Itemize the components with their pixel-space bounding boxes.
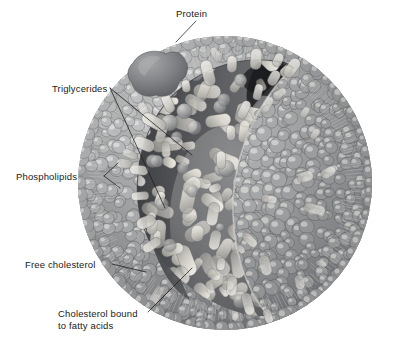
- triglyceride-glycerol-knob: [177, 163, 189, 175]
- label-cholesterol-bound-line1: Cholesterol bound: [58, 308, 138, 319]
- triglyceride-glycerol-knob: [156, 198, 169, 211]
- triglyceride-glycerol-knob: [218, 94, 231, 107]
- triglyceride-glycerol-knob: [187, 120, 201, 134]
- label-protein: Protein: [176, 8, 207, 19]
- triglyceride-glycerol-knob: [146, 154, 159, 167]
- triglyceride-molecule: [161, 141, 171, 158]
- phospholipid-head: [323, 155, 334, 165]
- membrane-edge-capsule: [216, 151, 225, 169]
- triglyceride-glycerol-knob: [186, 185, 198, 197]
- membrane-edge-capsule: [216, 257, 226, 271]
- triglyceride-glycerol-knob: [177, 103, 192, 118]
- lipoprotein-figure: ProteinTriglyceridesPhospholipidsFree ch…: [0, 0, 407, 361]
- label-free-cholesterol: Free cholesterol: [25, 259, 96, 270]
- label-cholesterol-bound-line2: to fatty acids: [58, 320, 114, 331]
- triglyceride-glycerol-knob: [163, 239, 176, 252]
- membrane-edge-capsule: [226, 276, 237, 297]
- membrane-edge-capsule: [226, 125, 236, 141]
- membrane-edge-head: [250, 48, 263, 70]
- triglyceride-glycerol-knob: [171, 132, 182, 143]
- label-phospholipids: Phospholipids: [16, 171, 77, 182]
- lipoprotein-diagram-svg: ProteinTriglyceridesPhospholipidsFree ch…: [0, 0, 407, 361]
- triglyceride-glycerol-knob: [234, 74, 246, 86]
- membrane-edge-head: [131, 191, 149, 200]
- membrane-edge-head: [227, 56, 237, 73]
- label-triglycerides: Triglycerides: [52, 83, 108, 94]
